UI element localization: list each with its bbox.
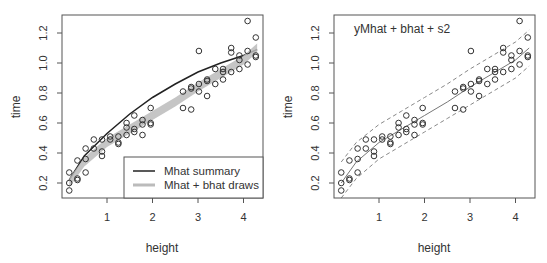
data-point [371, 137, 377, 143]
y-tick-label: 0.6 [37, 115, 49, 130]
data-point [338, 188, 344, 194]
data-point [188, 107, 194, 113]
data-point [245, 62, 251, 68]
data-point [363, 146, 369, 152]
data-point [204, 93, 210, 99]
data-point [525, 35, 531, 41]
data-point [468, 89, 474, 95]
y-tick-label: 1.2 [37, 25, 49, 40]
right-panel: 0.20.40.60.81.01.21234heighttimeyMhat + … [281, 15, 535, 255]
plot-frame [334, 15, 535, 198]
data-point [245, 18, 251, 24]
data-point [237, 66, 243, 72]
x-tick-label: 3 [195, 211, 201, 223]
data-point [338, 170, 344, 176]
legend: Mhat summaryMhat + bhat draws [124, 157, 263, 198]
y-tick-label: 0.8 [309, 85, 321, 100]
x-tick-label: 1 [376, 211, 382, 223]
data-point [476, 93, 482, 99]
legend-label: Mhat summary [164, 165, 240, 177]
data-point [355, 170, 361, 176]
data-point [132, 113, 138, 119]
data-point [91, 137, 97, 143]
data-point [180, 105, 186, 111]
data-point [500, 69, 506, 75]
y-tick-label: 0.2 [309, 175, 321, 190]
data-point [404, 113, 410, 119]
data-point [452, 105, 458, 111]
data-point [75, 158, 81, 164]
data-point [140, 132, 146, 138]
y-tick-label: 0.4 [309, 145, 321, 160]
x-tick-label: 3 [467, 211, 473, 223]
x-tick-label: 2 [421, 211, 427, 223]
y-tick-label: 0.4 [37, 145, 49, 160]
data-point [484, 81, 490, 87]
data-point [196, 48, 202, 54]
data-point [148, 105, 154, 111]
x-tick-label: 2 [149, 211, 155, 223]
data-point [509, 66, 515, 72]
y-tick-label: 0.8 [37, 85, 49, 100]
x-axis-label: height [418, 241, 451, 255]
data-point [460, 107, 466, 113]
data-point [212, 66, 218, 72]
data-point [517, 18, 523, 24]
data-point [517, 62, 523, 68]
data-point [492, 77, 498, 83]
data-point [420, 105, 426, 111]
curve-mean [341, 48, 529, 183]
data-point [517, 48, 523, 54]
data-point [396, 132, 402, 138]
data-point [83, 170, 89, 176]
figure: 0.20.40.60.81.01.21234heighttimeMhat sum… [0, 0, 547, 263]
x-tick-label: 1 [104, 211, 110, 223]
scatter-points [338, 18, 530, 193]
left-panel: 0.20.40.60.81.01.21234heighttimeMhat sum… [9, 15, 263, 255]
y-tick-label: 0.2 [37, 175, 49, 190]
data-point [220, 77, 226, 83]
data-point [83, 146, 89, 152]
data-point [484, 66, 490, 72]
y-axis-label: time [9, 95, 23, 118]
y-tick-label: 1.2 [309, 25, 321, 40]
legend-label: Mhat + bhat draws [164, 179, 259, 191]
data-point [468, 48, 474, 54]
plot-svg: 0.20.40.60.81.01.21234heighttimeMhat sum… [0, 0, 547, 263]
data-point [355, 146, 361, 152]
data-point [212, 81, 218, 87]
data-point [347, 158, 353, 164]
x-tick-label: 4 [240, 211, 246, 223]
x-axis-label: height [146, 241, 179, 255]
data-point [452, 89, 458, 95]
y-tick-label: 1.0 [309, 55, 321, 70]
data-point [66, 188, 72, 194]
data-point [253, 35, 259, 41]
curve-lower [341, 66, 529, 198]
y-tick-label: 1.0 [37, 55, 49, 70]
data-point [66, 170, 72, 176]
annotation-text: yMhat + bhat + s2 [354, 22, 450, 36]
y-axis-label: time [281, 95, 295, 118]
data-point [412, 132, 418, 138]
x-tick-label: 4 [512, 211, 518, 223]
data-point [363, 137, 369, 143]
y-tick-label: 0.6 [309, 115, 321, 130]
